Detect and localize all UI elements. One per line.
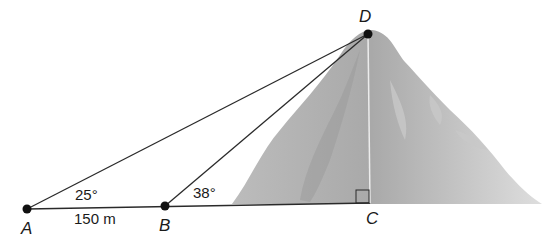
point-d	[364, 30, 373, 39]
mountain-triangulation-diagram: A B C D 25° 38° 150 m	[0, 0, 542, 239]
point-a	[23, 205, 32, 214]
label-b: B	[159, 216, 170, 235]
angle-b-label: 38°	[193, 184, 216, 201]
diagram-svg: A B C D 25° 38° 150 m	[0, 0, 542, 239]
point-b	[161, 202, 170, 211]
distance-ab-label: 150 m	[74, 210, 116, 227]
ground-line	[27, 203, 370, 209]
mountain-shape	[232, 30, 542, 204]
angle-a-label: 25°	[75, 186, 98, 203]
label-a: A	[20, 219, 32, 238]
label-d: D	[359, 7, 371, 26]
label-c: C	[366, 209, 379, 228]
